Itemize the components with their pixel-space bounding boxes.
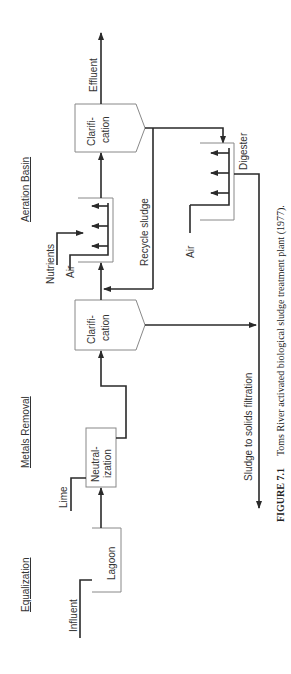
neutralization-label-1: Neutral- <box>90 446 101 482</box>
digester-label: Digester <box>238 132 249 170</box>
lime-line <box>71 478 86 511</box>
digester-air-label: Air <box>185 245 196 258</box>
clarifier-2-label-1: Clarifi- <box>86 117 97 146</box>
clarifier-1-label-1: Clarifi- <box>86 315 97 344</box>
effluent-label: Effluent <box>88 58 99 92</box>
lime-label: Lime <box>58 486 69 508</box>
sludge-filtration-label: Sludge to solids filtration <box>243 373 254 481</box>
figure-caption-label: FIGURE 7.1 <box>275 468 286 522</box>
figure-caption: FIGURE 7.1 Toms River activated biologic… <box>270 205 287 522</box>
clarifier-2-label-2: cation <box>100 116 111 143</box>
clarifier-1-label-2: cation <box>100 314 111 341</box>
figure-caption-text: Toms River activated biological sludge t… <box>275 205 287 456</box>
recycle-sludge-label: Recycle sludge <box>139 198 150 266</box>
influent-label: Influent <box>68 599 79 632</box>
aeration-air-label: Air <box>65 265 76 278</box>
section-metals-removal: Metals Removal <box>20 396 31 468</box>
section-aeration-basin: Aeration Basin <box>20 157 31 222</box>
neutralization-to-clarifier-arrow <box>101 351 126 438</box>
section-equalization: Equalization <box>20 558 31 612</box>
nutrients-label: Nutrients <box>45 244 56 284</box>
neutralization-label-2: ization <box>102 449 113 478</box>
underflow-to-digester-arrow <box>145 128 223 143</box>
process-flow-diagram: Equalization Metals Removal Aeration Bas… <box>0 0 291 674</box>
lagoon-label: Lagoon <box>106 547 117 580</box>
